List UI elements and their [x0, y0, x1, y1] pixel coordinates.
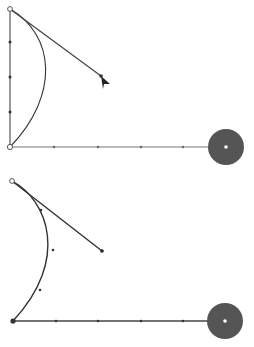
curve-tick [40, 209, 43, 212]
axis-tick [9, 111, 12, 114]
axis-tick [9, 76, 12, 79]
top-panel [7, 7, 244, 165]
axis-tick [140, 320, 143, 323]
axis-tick [97, 146, 99, 148]
tangent-handle-line[interactable] [12, 181, 102, 251]
origin-node-handle[interactable] [7, 144, 12, 149]
disc-center-dot [224, 145, 228, 149]
mouse-cursor-icon [101, 76, 110, 89]
axis-tick [9, 41, 12, 44]
curve-tick [52, 249, 55, 252]
tangent-handle-line[interactable] [10, 9, 101, 76]
bezier-curve [12, 181, 48, 321]
axis-tick [55, 320, 58, 323]
axis-tick [97, 320, 100, 323]
curve-tick [39, 289, 42, 292]
origin-node-handle[interactable] [10, 318, 15, 323]
axis-tick [182, 146, 184, 148]
axis-tick [53, 146, 55, 148]
bezier-curve [10, 9, 46, 147]
diagram-canvas [0, 0, 254, 347]
axis-tick [182, 320, 185, 323]
start-node-handle[interactable] [8, 7, 13, 12]
bottom-panel [10, 179, 243, 339]
tangent-end-node[interactable] [100, 249, 104, 253]
disc-center-dot [223, 319, 227, 323]
axis-tick [140, 146, 142, 148]
start-node-handle[interactable] [10, 179, 15, 184]
